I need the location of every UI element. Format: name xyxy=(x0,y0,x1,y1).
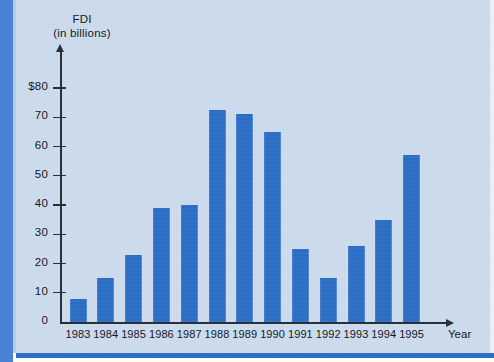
y-axis-tick xyxy=(53,234,66,235)
y-axis-title-line1: FDI xyxy=(26,12,138,26)
bar-chart: FDI (in billions) $80706050403020100 198… xyxy=(0,0,494,362)
y-axis-tick xyxy=(53,263,66,264)
y-axis-tick-label: 30 xyxy=(4,226,48,238)
bar-1990 xyxy=(264,132,281,322)
bottom-blue-rule xyxy=(16,353,494,358)
y-axis-tick xyxy=(53,175,66,176)
y-axis-tick xyxy=(53,117,66,118)
x-axis-title: Year xyxy=(448,328,471,340)
bar-1995 xyxy=(403,155,420,322)
y-axis-tick-label: 40 xyxy=(4,197,48,209)
y-axis-title-line2: (in billions) xyxy=(26,26,138,40)
chart-page: FDI (in billions) $80706050403020100 198… xyxy=(0,0,494,362)
y-axis-line xyxy=(60,50,62,322)
y-axis-tick-label: 60 xyxy=(4,139,48,151)
bar-1992 xyxy=(320,278,337,322)
y-axis-tick xyxy=(53,292,66,293)
x-axis-line xyxy=(60,322,448,324)
y-axis-tick xyxy=(53,87,66,88)
y-axis-tick-label: 0 xyxy=(4,314,48,326)
bar-1988 xyxy=(209,110,226,322)
y-axis-tick-label: 10 xyxy=(4,285,48,297)
bar-1989 xyxy=(236,114,253,322)
bar-1983 xyxy=(70,299,87,322)
bar-1987 xyxy=(181,205,198,322)
bar-1984 xyxy=(97,278,114,322)
y-axis-tick-label: 20 xyxy=(4,256,48,268)
bar-1993 xyxy=(348,246,365,322)
y-axis-tick-label: 70 xyxy=(4,109,48,121)
bar-1986 xyxy=(153,208,170,322)
y-axis-title: FDI (in billions) xyxy=(26,12,138,40)
y-axis-tick-label: $80 xyxy=(4,80,48,92)
bar-1994 xyxy=(375,220,392,322)
bar-1985 xyxy=(125,255,142,322)
y-axis-tick xyxy=(53,204,66,205)
bottom-left-band-corner xyxy=(0,353,13,362)
y-axis-tick-label: 50 xyxy=(4,168,48,180)
x-axis-label-1995: 1995 xyxy=(392,328,432,340)
x-axis-arrow-icon xyxy=(446,319,454,327)
y-axis-tick xyxy=(53,146,66,147)
bar-1991 xyxy=(292,249,309,322)
